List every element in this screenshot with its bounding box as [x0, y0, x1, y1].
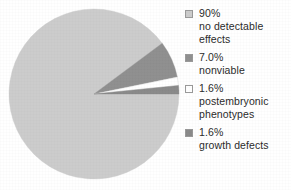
legend-item-postembryonic-phenotypes[interactable]: 1.6% postembryonic phenotypes	[185, 82, 291, 121]
legend-item-growth-defects[interactable]: 1.6% growth defects	[185, 126, 291, 152]
legend-label-nonviable: 7.0% nonviable	[199, 51, 245, 77]
chart-legend: 90% no detectable effects 7.0% nonviable…	[185, 7, 291, 183]
legend-swatch-nonviable	[185, 54, 193, 62]
pie-chart-figure: 90% no detectable effects 7.0% nonviable…	[0, 0, 291, 190]
legend-item-no-detectable-effects[interactable]: 90% no detectable effects	[185, 7, 291, 46]
legend-swatch-postembryonic-phenotypes	[185, 85, 193, 93]
pie-slices	[9, 9, 179, 179]
legend-swatch-no-detectable-effects	[185, 10, 193, 18]
pie-chart-plot	[0, 0, 188, 190]
pie-svg	[0, 0, 188, 190]
legend-swatch-growth-defects	[185, 129, 193, 137]
legend-label-growth-defects: 1.6% growth defects	[199, 126, 269, 152]
legend-label-postembryonic-phenotypes: 1.6% postembryonic phenotypes	[199, 82, 269, 121]
legend-label-no-detectable-effects: 90% no detectable effects	[199, 7, 263, 46]
legend-item-nonviable[interactable]: 7.0% nonviable	[185, 51, 291, 77]
